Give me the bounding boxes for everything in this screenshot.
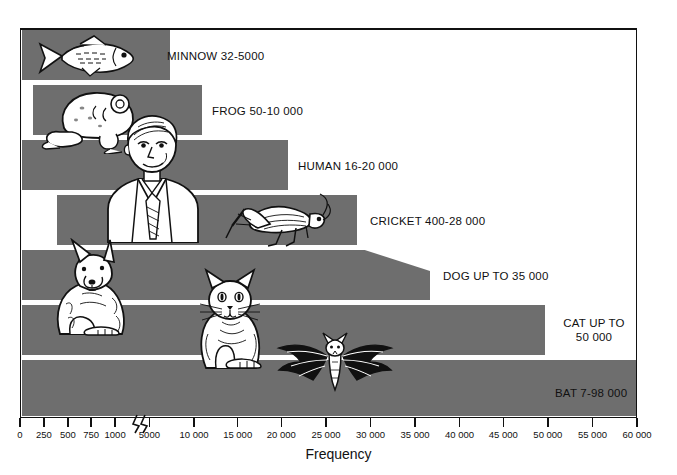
axis-tick-label: 20 000 bbox=[267, 429, 296, 440]
axis-tick-label: 45 000 bbox=[489, 429, 518, 440]
axis-title: Frequency bbox=[0, 446, 677, 462]
axis-tick-label: 40 000 bbox=[445, 429, 474, 440]
bar-label-cricket: CRICKET 400-28 000 bbox=[370, 214, 485, 228]
axis-tick bbox=[414, 418, 415, 427]
axis-tick-label: 50 000 bbox=[533, 429, 562, 440]
frequency-axis: 02505007501000500010 00015 00020 00025 0… bbox=[0, 418, 677, 448]
axis-tick-label: 0 bbox=[17, 429, 22, 440]
axis-tick bbox=[370, 418, 371, 427]
axis-tick bbox=[19, 418, 20, 427]
axis-tick-label: 55 000 bbox=[578, 429, 607, 440]
axis-tick bbox=[547, 418, 548, 427]
axis-break-zigzag-icon bbox=[131, 414, 153, 434]
bar-label-cat: CAT UP TO 50 000 bbox=[551, 316, 637, 344]
bar-label-minnow: MINNOW 32-5000 bbox=[167, 49, 264, 63]
axis-tick bbox=[67, 418, 68, 427]
axis-tick-label: 500 bbox=[60, 429, 76, 440]
axis-tick-label: 25 000 bbox=[311, 429, 340, 440]
axis-tick-label: 30 000 bbox=[356, 429, 385, 440]
axis-tick-label: 15 000 bbox=[223, 429, 252, 440]
axis-tick-label: 35 000 bbox=[401, 429, 430, 440]
axis-tick bbox=[281, 418, 282, 427]
axis-tick bbox=[43, 418, 44, 427]
axis-tick-label: 60 000 bbox=[622, 429, 651, 440]
axis-tick bbox=[503, 418, 504, 427]
bar-label-bat: BAT 7-98 000 bbox=[555, 386, 627, 400]
axis-tick bbox=[636, 418, 637, 427]
bar-label-human: HUMAN 16-20 000 bbox=[298, 159, 398, 173]
axis-tick-label: 750 bbox=[83, 429, 99, 440]
bar-label-dog: DOG UP TO 35 000 bbox=[443, 269, 548, 283]
axis-tick bbox=[325, 418, 326, 427]
axis-tick-label: 10 000 bbox=[179, 429, 208, 440]
axis-tick bbox=[193, 418, 194, 427]
axis-tick-label: 1000 bbox=[105, 429, 126, 440]
axis-tick bbox=[592, 418, 593, 427]
axis-tick bbox=[90, 418, 91, 427]
axis-tick bbox=[114, 418, 115, 427]
chart-page: MINNOW 32-5000 FROG 50-10 000 HUMAN 16-2… bbox=[0, 0, 677, 475]
axis-tick-label: 250 bbox=[36, 429, 52, 440]
bar-label-frog: FROG 50-10 000 bbox=[212, 104, 303, 118]
axis-tick bbox=[459, 418, 460, 427]
plot-frame bbox=[20, 28, 637, 418]
axis-tick bbox=[237, 418, 238, 427]
